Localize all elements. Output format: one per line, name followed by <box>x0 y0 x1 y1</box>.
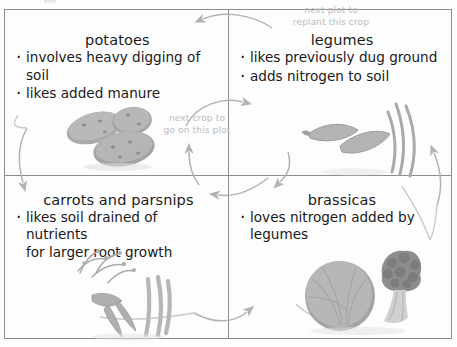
scan-artifact <box>44 0 56 5</box>
list-item: adds nitrogen to soil <box>239 68 445 86</box>
cabbage-broccoli-illustration <box>296 245 426 337</box>
carrots-parsnips-illustration <box>62 243 182 341</box>
next-crop-note: next crop to go on this plot <box>158 113 236 137</box>
brassicas-bullets: loves nitrogen added by legumes <box>239 209 445 244</box>
list-item: likes previously dug ground <box>239 49 445 67</box>
list-item: involves heavy digging of soil <box>15 49 220 84</box>
pea-pods-illustration <box>300 98 420 178</box>
diagram-canvas: potatoes involves heavy digging of soil … <box>0 0 457 347</box>
carrots-and-parsnips-title: carrots and parsnips <box>15 192 222 208</box>
list-item: loves nitrogen added by legumes <box>239 209 445 244</box>
legumes-bullets: likes previously dug ground adds nitroge… <box>239 49 445 85</box>
brassicas-title: brassicas <box>239 192 445 208</box>
potatoes-bullets: involves heavy digging of soil likes add… <box>15 49 220 103</box>
potatoes-illustration <box>58 97 166 173</box>
next-plot-note: next plot to replant this crop <box>276 5 386 29</box>
potatoes-title: potatoes <box>15 32 220 48</box>
legumes-title: legumes <box>239 32 445 48</box>
